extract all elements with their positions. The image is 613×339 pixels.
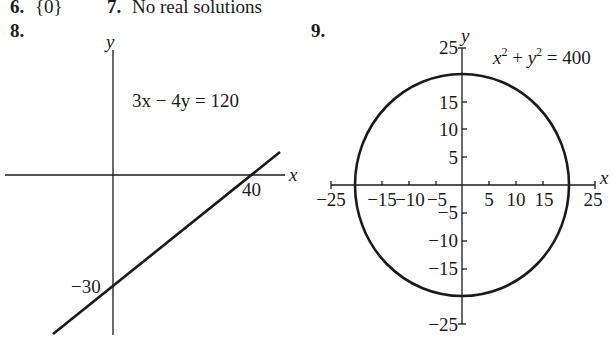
- svg-text:10: 10: [439, 119, 458, 140]
- svg-text:−10: −10: [428, 230, 458, 251]
- svg-text:−10: −10: [395, 189, 425, 210]
- svg-text:5: 5: [449, 147, 459, 168]
- graph-9-circle: y x x2 + y2 = 400 25 15 10 5 −5 −10 −15 …: [0, 0, 613, 339]
- svg-text:−25: −25: [428, 314, 458, 335]
- graph-9-x-axis-label: x: [599, 167, 609, 188]
- svg-text:−15: −15: [428, 258, 458, 279]
- graph-9-x-tick-labels: −25 −15 −10 −5 5 10 15 25: [316, 189, 602, 210]
- svg-text:10: 10: [507, 189, 526, 210]
- svg-text:25: 25: [439, 37, 458, 58]
- svg-text:25: 25: [584, 189, 603, 210]
- graph-9-y-tick-labels: 25 15 10 5 −5 −10 −15 −25: [428, 37, 458, 335]
- svg-text:−15: −15: [367, 189, 397, 210]
- svg-text:5: 5: [484, 189, 494, 210]
- svg-text:15: 15: [535, 189, 554, 210]
- svg-text:−5: −5: [427, 189, 447, 210]
- svg-text:15: 15: [439, 92, 458, 113]
- graph-9-y-axis-label: y: [459, 25, 470, 46]
- graph-9-equation-label: x2 + y2 = 400: [492, 45, 591, 68]
- svg-text:−25: −25: [316, 189, 346, 210]
